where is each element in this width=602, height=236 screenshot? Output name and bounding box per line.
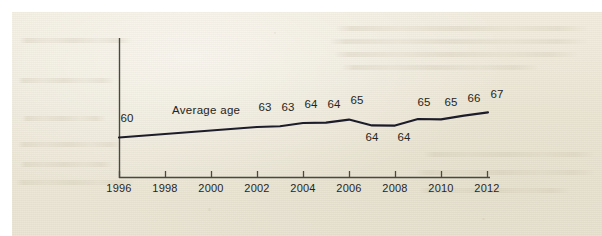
value-label-2007: 64 [365,131,378,143]
value-label-2008: 64 [397,131,410,143]
value-label-2003: 63 [281,101,294,113]
x-tick-label-2000: 2000 [198,182,223,194]
series-label-average-age: Average age [172,104,240,116]
value-label-2010: 65 [444,96,457,108]
value-label-2012: 67 [490,88,503,100]
value-label-2002: 63 [258,101,271,113]
x-tick-label-2004: 2004 [290,182,315,194]
value-label-2006: 65 [350,94,363,106]
value-label-2004: 64 [304,98,317,110]
x-tick-label-2002: 2002 [244,182,269,194]
value-label-2005: 64 [327,98,340,110]
x-tick-label-2008: 2008 [382,182,407,194]
value-label-2011: 66 [467,92,480,104]
chart-canvas [0,0,602,236]
x-tick-label-2006: 2006 [336,182,361,194]
x-tick-label-1996: 1996 [106,182,131,194]
x-tick-label-1998: 1998 [152,182,177,194]
line-chart: Average age 60 63 63 64 64 65 64 64 65 6… [0,0,602,236]
average-age-line [119,112,488,137]
x-tick-label-2012: 2012 [474,182,499,194]
x-tick-label-2010: 2010 [428,182,453,194]
scanned-page: Average age 60 63 63 64 64 65 64 64 65 6… [0,0,602,236]
value-label-2009: 65 [417,96,430,108]
value-label-1996: 60 [120,112,133,124]
